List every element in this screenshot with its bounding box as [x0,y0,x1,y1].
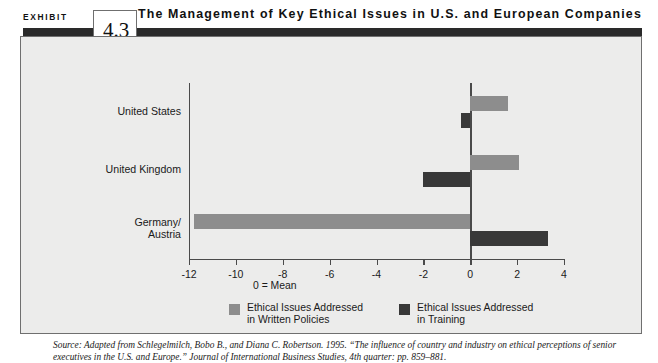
chart-frame: United StatesUnited KingdomGermany/Austr… [20,36,642,334]
x-axis-tick [236,259,237,265]
x-axis-tick-label: -2 [419,268,428,280]
x-axis-tick [283,259,284,265]
exhibit-word-label: EXHIBIT [23,12,68,22]
x-axis-tick-label: 0 [467,268,473,280]
x-axis-tick-label: 2 [514,268,520,280]
category-label: United States [117,106,181,118]
category-axis-labels: United StatesUnited KingdomGermany/Austr… [21,83,181,259]
x-axis-tick [470,259,471,265]
chart-legend: Ethical Issues Addressed in Written Poli… [229,302,533,326]
x-axis-tick [517,259,518,265]
chart-bar [470,231,547,246]
source-note: Source: Adapted from Schlegelmilch, Bobo… [53,340,651,363]
chart-bar [423,172,470,187]
exhibit-title: The Management of Key Ethical Issues in … [138,7,642,21]
chart-bar [470,155,519,170]
category-label: United Kingdom [106,164,181,176]
axis-left-line [189,83,190,259]
x-axis-tick-label: -12 [181,268,196,280]
x-axis-tick-label: -4 [372,268,381,280]
x-axis-tick-label: -8 [278,268,287,280]
plot-area: -12-10-8-6-4-2024 [189,83,564,259]
x-axis-tick [330,259,331,265]
chart-bar [461,113,470,128]
x-axis-tick-label: -6 [325,268,334,280]
legend-swatch-icon-light [229,304,240,315]
x-axis-tick [564,259,565,265]
mean-annotation: 0 = Mean [253,280,297,291]
legend-label-training: Ethical Issues Addressed in Training [417,302,533,326]
x-axis-tick-label: 4 [561,268,567,280]
x-axis-tick [423,259,424,265]
legend-item-training: Ethical Issues Addressed in Training [399,302,533,326]
chart-bar [194,214,471,229]
legend-swatch-icon-dark [399,304,410,315]
legend-item-written-policies: Ethical Issues Addressed in Written Poli… [229,302,363,326]
x-axis-tick-label: -10 [228,268,243,280]
legend-label-written-policies: Ethical Issues Addressed in Written Poli… [247,302,363,326]
x-axis-tick [377,259,378,265]
x-axis-tick [189,259,190,265]
chart-bar [470,96,508,111]
category-label: Germany/Austria [134,217,181,240]
